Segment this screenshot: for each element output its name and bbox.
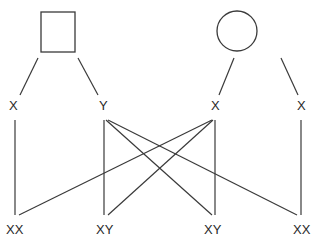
male-parent-square (41, 12, 75, 52)
female-gamete-x2: X (297, 98, 306, 113)
female-to-x2-line (281, 58, 298, 95)
offspring-xy-1: XY (96, 222, 114, 237)
male-gamete-y: Y (99, 98, 108, 113)
sex-determination-diagram: X Y X X XX XY XY XX (0, 0, 313, 239)
y-to-xx2-line (108, 120, 297, 215)
male-to-y-line (78, 58, 98, 95)
y-to-xy2-line (106, 120, 212, 215)
female-to-x1-line (219, 58, 234, 95)
female-gamete-x1: X (211, 98, 220, 113)
offspring-xx-2: XX (293, 222, 311, 237)
x1-to-xy1-line (108, 120, 213, 215)
offspring-xy-2: XY (204, 222, 222, 237)
offspring-xx-1: XX (6, 222, 24, 237)
male-gamete-x: X (9, 98, 18, 113)
male-to-x-line (20, 58, 38, 95)
x1-to-xx1-line (19, 120, 212, 215)
female-parent-circle (217, 11, 257, 51)
